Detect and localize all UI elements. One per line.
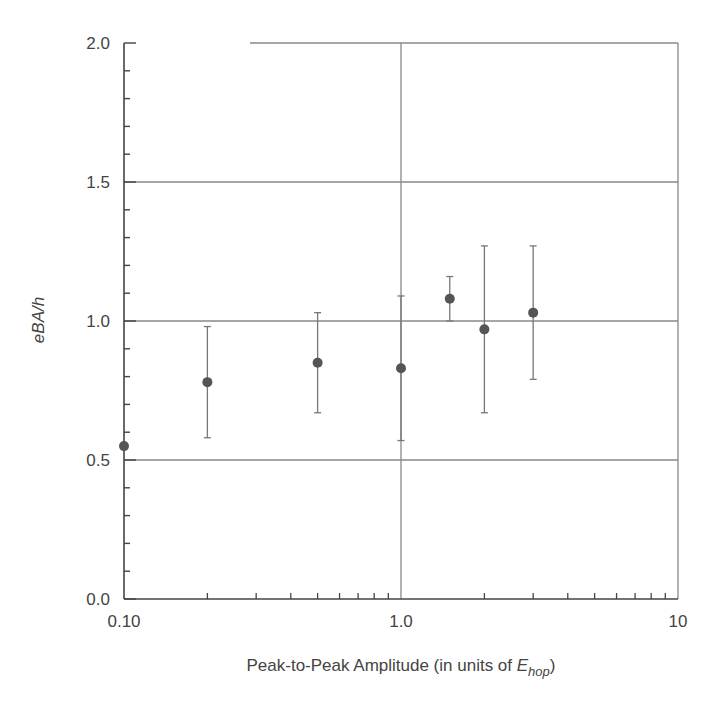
x-tick-label: 0.10	[107, 612, 140, 631]
marker-circle	[396, 363, 406, 373]
data-point	[313, 313, 323, 413]
data-point	[479, 246, 489, 413]
data-point	[396, 296, 406, 441]
marker-circle	[119, 441, 129, 451]
x-tick-label: 10	[669, 612, 688, 631]
y-tick-label: 0.5	[86, 451, 110, 470]
y-tick-label: 1.5	[86, 173, 110, 192]
marker-circle	[313, 358, 323, 368]
marker-circle	[445, 294, 455, 304]
data-point	[528, 246, 538, 379]
y-tick-label: 0.0	[86, 590, 110, 609]
marker-circle	[528, 308, 538, 318]
marker-circle	[479, 324, 489, 334]
y-tick-label: 2.0	[86, 34, 110, 53]
y-axis-title: eBA/h	[29, 297, 48, 343]
x-tick-label: 1.0	[389, 612, 413, 631]
x-axis-title: Peak-to-Peak Amplitude (in units of Ehop…	[247, 656, 556, 679]
tick-labels: 0.00.51.01.52.00.101.010	[86, 34, 687, 631]
scatter-chart: 0.00.51.01.52.00.101.010 eBA/h Peak-to-P…	[0, 0, 721, 704]
data-point	[119, 441, 129, 451]
marker-circle	[202, 377, 212, 387]
data-point	[445, 277, 455, 321]
data-series	[119, 246, 538, 451]
y-tick-label: 1.0	[86, 312, 110, 331]
data-point	[202, 327, 212, 438]
